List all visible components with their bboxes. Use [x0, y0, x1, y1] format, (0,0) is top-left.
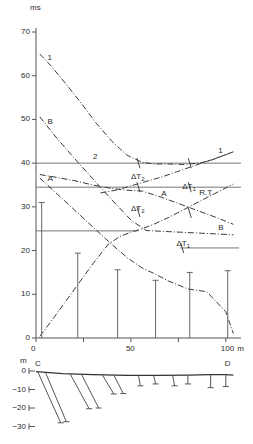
label-A-left: A [47, 175, 52, 183]
ray-3 [70, 374, 89, 409]
x-axis-unit-label: m [237, 345, 244, 353]
y-axis-unit-label: ms [30, 4, 41, 12]
y-tick-label-40: 40 [6, 159, 30, 167]
section-y-label-2: −20 [0, 404, 26, 412]
y-tick-label-20: 20 [6, 247, 30, 255]
delta-t2-upper-subscript: 2 [141, 176, 144, 182]
delta-t1-upper-subscript: 1 [192, 186, 195, 192]
section-y-label-1: −10 [0, 386, 26, 394]
section-y-label-3: −30 [0, 423, 26, 431]
delta-t1-upper: ΔT1 [182, 183, 196, 193]
ray-9 [173, 375, 175, 385]
ray-8 [154, 375, 156, 384]
figure-canvas [0, 0, 253, 444]
curve-2-reverse [40, 178, 234, 334]
delta-t2-lower-subscript: 2 [141, 208, 144, 214]
x-tick-label-50: 50 [126, 345, 135, 353]
ray-6 [114, 375, 123, 394]
ray-1 [38, 372, 61, 423]
label-1-right: 1 [218, 147, 222, 155]
delta-t1-lower: ΔT1 [176, 240, 190, 250]
figure-root: 010203040506070050100mms1BA21ABR.T.ΔT2ΔT… [0, 0, 253, 444]
y-tick-label-10: 10 [6, 290, 30, 298]
delta-t2-upper: ΔT2 [131, 173, 145, 183]
ray-7 [139, 375, 141, 385]
y-tick-label-70: 70 [6, 28, 30, 36]
ray-4 [82, 374, 99, 408]
label-B-right: B [218, 224, 223, 232]
label-A-right: A [161, 190, 166, 198]
section-unit-label: m [20, 357, 27, 365]
label-2-mid: 2 [93, 153, 97, 161]
y-tick-label-50: 50 [6, 115, 30, 123]
surface-line [36, 372, 233, 376]
y-tick-label-0: 0 [6, 334, 30, 342]
label-B-left: B [47, 118, 52, 126]
y-tick-label-30: 30 [6, 203, 30, 211]
label-1-left: 1 [47, 54, 51, 62]
ray-5 [102, 375, 113, 394]
y-tick-label-60: 60 [6, 72, 30, 80]
point-D-label: D [225, 360, 231, 368]
x-tick-label-0: 0 [31, 345, 35, 353]
delta-t1-lower-subscript: 1 [187, 243, 190, 249]
section-y-label-0: 0 [0, 367, 26, 375]
x-tick-label-100: 100 [221, 345, 234, 353]
point-C-label: C [35, 360, 41, 368]
mark-dt1-low [188, 208, 191, 218]
label-RT: R.T. [199, 189, 213, 197]
delta-t2-lower: ΔT2 [131, 205, 145, 215]
curve-1-forward [40, 54, 234, 165]
